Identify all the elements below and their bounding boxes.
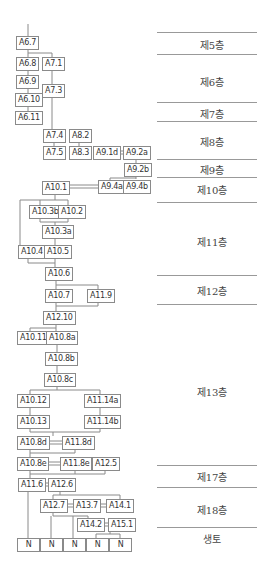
node-a6-7: A6.7 bbox=[16, 36, 39, 50]
node-a10-1: A10.1 bbox=[42, 181, 70, 195]
layer-separator bbox=[157, 465, 257, 466]
node-a9-2b: A9.2b bbox=[124, 163, 152, 177]
node-a14-2: A14.2 bbox=[77, 518, 105, 532]
node-n-5: N bbox=[109, 538, 132, 552]
layer-label-10: 제10층 bbox=[162, 182, 262, 197]
layer-label-8: 제8층 bbox=[162, 134, 262, 149]
node-a12-5: A12.5 bbox=[92, 457, 120, 471]
node-a10-5: A10.5 bbox=[44, 245, 72, 259]
node-a7-3: A7.3 bbox=[42, 84, 65, 98]
layer-label-6: 제6층 bbox=[162, 74, 262, 89]
node-a13-7: A13.7 bbox=[73, 499, 101, 513]
layer-separator bbox=[157, 275, 257, 276]
node-a10-2: A10.2 bbox=[58, 205, 86, 219]
node-a7-5: A7.5 bbox=[43, 146, 66, 160]
layer-label-subsoil: 생토 bbox=[162, 531, 262, 546]
node-a7-1: A7.1 bbox=[42, 57, 65, 71]
layer-label-9: 제9층 bbox=[162, 162, 262, 177]
node-a12-10: A12.10 bbox=[43, 311, 76, 325]
node-a8-3: A8.3 bbox=[69, 146, 92, 160]
layer-label-11: 제11층 bbox=[162, 234, 262, 249]
layer-separator bbox=[157, 54, 257, 55]
layer-separator bbox=[157, 527, 257, 528]
node-a9-4a: A9.4a bbox=[98, 180, 126, 194]
layer-separator bbox=[157, 202, 257, 203]
layer-label-7: 제7층 bbox=[162, 106, 262, 121]
node-n-2: N bbox=[40, 538, 63, 552]
node-a11-14a: A11.14a bbox=[84, 394, 121, 408]
node-a10-3b: A10.3b bbox=[29, 205, 62, 219]
node-a11-8e: A11.8e bbox=[60, 457, 92, 471]
node-a9-2a: A9.2a bbox=[123, 146, 151, 160]
node-n-3: N bbox=[63, 538, 86, 552]
layer-separator bbox=[157, 304, 257, 305]
node-a10-8c: A10.8c bbox=[44, 373, 76, 387]
node-a12-6: A12.6 bbox=[48, 478, 76, 492]
layer-label-18: 제18층 bbox=[162, 502, 262, 517]
node-a10-8d: A10.8d bbox=[17, 436, 50, 450]
node-a6-11: A6.11 bbox=[15, 111, 43, 125]
node-a10-11: A10.11 bbox=[17, 331, 50, 345]
node-a11-6: A11.6 bbox=[18, 478, 46, 492]
layer-separator bbox=[157, 487, 257, 488]
node-a14-1: A14.1 bbox=[106, 499, 134, 513]
node-n-1: N bbox=[17, 538, 40, 552]
node-a7-4: A7.4 bbox=[43, 129, 66, 143]
node-a11-9: A11.9 bbox=[87, 289, 115, 303]
layer-label-12: 제12층 bbox=[162, 283, 262, 298]
node-a10-8b: A10.8b bbox=[45, 352, 78, 366]
node-a9-1d: A9.1d bbox=[93, 146, 121, 160]
node-a10-12: A10.12 bbox=[17, 394, 50, 408]
layer-separator bbox=[157, 102, 257, 103]
node-a10-8a: A10.8a bbox=[46, 331, 78, 345]
node-a10-4: A10.4 bbox=[18, 245, 46, 259]
node-a10-13: A10.13 bbox=[17, 415, 50, 429]
layer-label-13: 제13층 bbox=[162, 384, 262, 399]
layer-separator bbox=[157, 177, 257, 178]
node-n-4: N bbox=[86, 538, 109, 552]
node-a6-9: A6.9 bbox=[16, 75, 39, 89]
layer-label-5: 제5층 bbox=[162, 37, 262, 52]
node-a10-3a: A10.3a bbox=[42, 225, 74, 239]
node-a9-4b: A9.4b bbox=[123, 180, 151, 194]
node-a8-2: A8.2 bbox=[69, 129, 92, 143]
layer-label-17: 제17층 bbox=[162, 469, 262, 484]
node-a15-1: A15.1 bbox=[108, 518, 136, 532]
node-a6-10: A6.10 bbox=[15, 93, 43, 107]
node-a12-7: A12.7 bbox=[40, 499, 68, 513]
layer-separator bbox=[157, 159, 257, 160]
node-a10-8e: A10.8e bbox=[17, 457, 49, 471]
node-a6-8: A6.8 bbox=[16, 57, 39, 71]
node-a10-7: A10.7 bbox=[45, 289, 73, 303]
node-a10-6: A10.6 bbox=[45, 267, 73, 281]
node-a11-8d: A11.8d bbox=[62, 436, 95, 450]
layer-separator bbox=[157, 121, 257, 122]
layer-separator bbox=[157, 32, 257, 33]
node-a11-14b: A11.14b bbox=[84, 415, 121, 429]
